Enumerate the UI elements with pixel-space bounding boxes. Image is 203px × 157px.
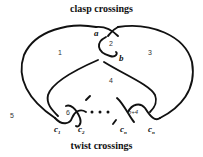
region-label-6: 6 bbox=[66, 109, 70, 116]
clasp-label-b: b bbox=[119, 53, 124, 63]
region-label-n-plus-4: n+4 bbox=[128, 109, 138, 115]
ellipsis-dot bbox=[107, 111, 110, 114]
twist-label-cn-a: cn bbox=[120, 124, 127, 135]
strand-left-outer bbox=[22, 26, 96, 118]
twist-label-cn-b: cn bbox=[148, 124, 155, 135]
twist-crossings-title: twist crossings bbox=[0, 140, 203, 151]
region-label-5: 5 bbox=[10, 112, 14, 119]
region-label-1: 1 bbox=[58, 49, 62, 56]
clasp-label-a: a bbox=[94, 28, 99, 38]
ellipsis-dot bbox=[99, 111, 102, 114]
strand-inner-right bbox=[104, 62, 156, 112]
twist-label-c1: c1 bbox=[54, 124, 61, 135]
strand-twist-gap-left bbox=[86, 96, 90, 100]
region-label-4: 4 bbox=[109, 77, 113, 84]
region-label-3: 3 bbox=[148, 49, 152, 56]
twist-label-c2: c2 bbox=[78, 124, 85, 135]
strand-twist-n-b bbox=[113, 120, 116, 124]
ellipsis-dot bbox=[91, 111, 94, 114]
knot-diagram: clasp crossings a b 1 2 3 4 5 6 n+4 c1 c… bbox=[0, 0, 203, 157]
region-label-2: 2 bbox=[109, 40, 113, 47]
knot-strands bbox=[0, 0, 203, 157]
strand-clasp-hook bbox=[99, 37, 117, 56]
